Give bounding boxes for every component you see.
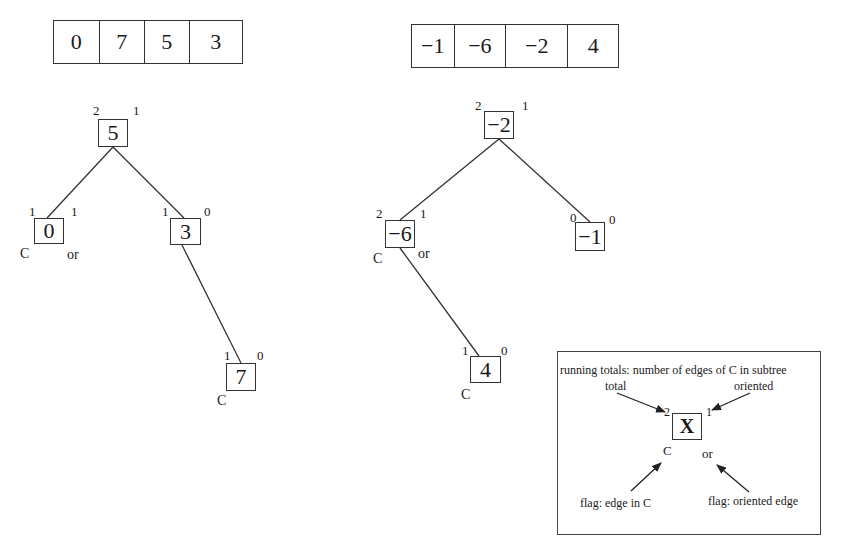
left-array: 0 7 5 3 bbox=[53, 20, 243, 64]
legend-title: running totals: number of edges of C in … bbox=[560, 364, 787, 376]
total-count: 1 bbox=[224, 349, 231, 362]
total-count: 0 bbox=[570, 211, 577, 224]
oriented-count: 1 bbox=[522, 99, 529, 112]
tree-node: 7 bbox=[226, 363, 256, 391]
tree-node: 4 bbox=[470, 356, 501, 383]
oriented-count: 0 bbox=[257, 349, 264, 362]
tree-node: −6 bbox=[385, 220, 415, 248]
total-count: 2 bbox=[93, 104, 100, 117]
legend-node: X bbox=[672, 413, 702, 440]
legend-total-value: 2 bbox=[664, 406, 670, 418]
or-flag: or bbox=[418, 247, 430, 261]
array-cell: −1 bbox=[412, 25, 455, 67]
array-cell: 4 bbox=[568, 25, 618, 67]
total-count: 2 bbox=[475, 99, 482, 112]
oriented-count: 0 bbox=[501, 344, 508, 357]
tree-node: 3 bbox=[170, 218, 201, 245]
c-flag: C bbox=[461, 388, 470, 402]
tree-node: −1 bbox=[575, 222, 605, 251]
legend-c-flag: C bbox=[663, 444, 672, 457]
array-cell: −6 bbox=[455, 25, 507, 67]
oriented-count: 1 bbox=[133, 104, 140, 117]
c-flag: C bbox=[373, 252, 382, 266]
total-count: 2 bbox=[376, 207, 383, 220]
total-count: 1 bbox=[462, 344, 469, 357]
c-flag: C bbox=[20, 247, 29, 261]
right-array: −1 −6 −2 4 bbox=[411, 24, 619, 68]
legend-oriented-label: oriented bbox=[734, 380, 773, 392]
legend-flag-c-label: flag: edge in C bbox=[580, 497, 651, 509]
tree-node-root: −2 bbox=[484, 111, 514, 139]
total-count: 1 bbox=[29, 205, 36, 218]
legend-total-label: total bbox=[605, 380, 626, 392]
tree-node: 0 bbox=[34, 218, 64, 244]
or-flag: or bbox=[67, 248, 79, 262]
legend-or-flag: or bbox=[702, 447, 713, 460]
oriented-count: 0 bbox=[204, 205, 211, 218]
array-cell: 7 bbox=[100, 21, 146, 63]
total-count: 1 bbox=[162, 205, 169, 218]
c-flag: C bbox=[217, 394, 226, 408]
tree-node-root: 5 bbox=[98, 119, 128, 147]
oriented-count: 1 bbox=[71, 205, 78, 218]
oriented-count: 1 bbox=[420, 207, 427, 220]
oriented-count: 0 bbox=[609, 213, 616, 226]
legend-flag-or-label: flag: oriented edge bbox=[708, 495, 798, 507]
array-cell: 0 bbox=[54, 21, 100, 63]
legend-oriented-value: 1 bbox=[706, 406, 712, 418]
array-cell: −2 bbox=[506, 25, 568, 67]
array-cell: 5 bbox=[145, 21, 190, 63]
array-cell: 3 bbox=[190, 21, 242, 63]
